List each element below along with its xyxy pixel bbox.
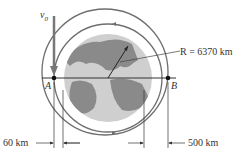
point-b	[166, 76, 171, 81]
orbit-diagram: v0 A B R = 6370 km 60 km 500 km	[0, 0, 240, 157]
point-a	[52, 76, 57, 81]
altitude-b-label: 500 km	[188, 137, 219, 148]
label-a: A	[44, 80, 52, 91]
velocity-label: v0	[40, 9, 48, 23]
velocity-arrowhead-icon	[50, 66, 58, 76]
orbit-arrow-icon	[112, 22, 116, 26]
radius-label: R = 6370 km	[180, 46, 233, 57]
label-b: B	[171, 80, 177, 91]
altitude-a-label: 60 km	[3, 137, 29, 148]
